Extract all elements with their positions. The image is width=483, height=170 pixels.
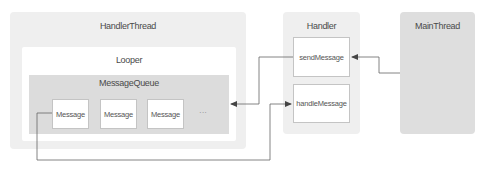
handler-thread-label: HandlerThread [10,21,246,31]
main-thread-container: MainThread [400,12,475,134]
message-ellipsis: ··· [199,108,207,117]
looper-label: Looper [22,55,236,65]
message-box-1: Message [52,99,89,129]
message-queue-label: MessageQueue [29,78,229,88]
handler-label: Handler [283,21,360,31]
send-message-box: sendMessage [293,37,350,77]
message-box-3: Message [147,99,184,129]
main-thread-label: MainThread [400,21,475,31]
handle-message-box: handleMessage [293,84,350,123]
message-box-2: Message [100,99,137,129]
